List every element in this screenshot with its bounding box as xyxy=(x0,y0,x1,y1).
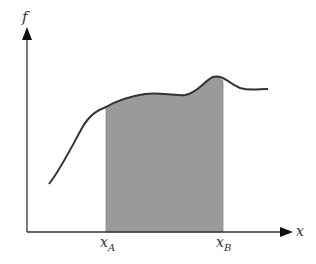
integral-diagram: f x xA xB xyxy=(0,0,316,264)
y-axis-arrow-icon xyxy=(22,27,32,40)
x-axis-arrow-icon xyxy=(280,227,293,237)
lower-bound-sub: A xyxy=(107,242,115,253)
y-axis-label: f xyxy=(21,8,30,26)
upper-bound-base: x xyxy=(216,234,224,250)
lower-bound-base: x xyxy=(100,234,108,250)
x-axis-label: x xyxy=(296,223,304,239)
upper-bound-sub: B xyxy=(223,242,231,253)
upper-bound-label: xB xyxy=(216,234,231,253)
lower-bound-label: xA xyxy=(100,234,115,253)
